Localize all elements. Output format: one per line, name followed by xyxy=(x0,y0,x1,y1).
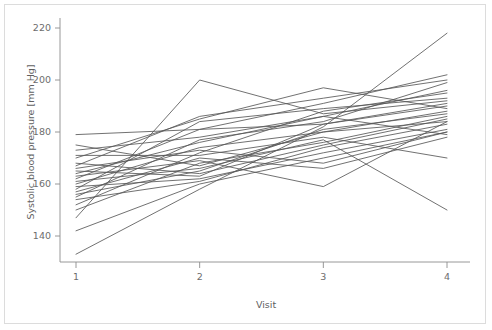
chart-figure: 1401601802002201234 Systolic blood press… xyxy=(0,0,492,330)
x-tick-label: 4 xyxy=(444,271,450,282)
y-tick-label: 220 xyxy=(33,22,51,33)
spaghetti-plot: 1401601802002201234 Systolic blood press… xyxy=(0,0,492,330)
x-tick-label: 3 xyxy=(320,271,326,282)
y-tick-label: 140 xyxy=(33,230,51,241)
y-axis-title: Systolic blood pressure [mm Hg] xyxy=(25,64,36,219)
x-tick-label: 2 xyxy=(197,271,203,282)
series-line xyxy=(76,116,447,173)
x-tick-label: 1 xyxy=(73,271,79,282)
series-line xyxy=(76,124,447,199)
series-group xyxy=(76,33,447,254)
series-line xyxy=(76,88,447,158)
x-axis-title: Visit xyxy=(256,299,277,310)
